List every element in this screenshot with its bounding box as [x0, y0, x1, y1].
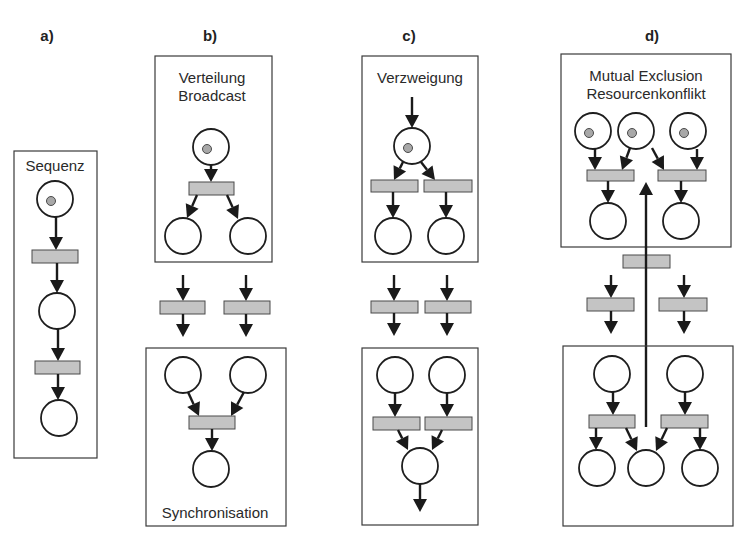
panel-label-b: b): [203, 27, 217, 44]
arc-b3: [227, 195, 233, 207]
transition-b-left: [160, 301, 205, 314]
arc-b8: [188, 392, 194, 404]
arc-b6-arrowhead: [239, 288, 253, 301]
arc-d4-arrowhead: [690, 157, 704, 170]
title-verzweigung: Verzweigung: [377, 69, 463, 86]
arc-d11-arrowhead: [606, 402, 620, 415]
arc-c5-arrowhead: [387, 288, 401, 301]
place-d7: [579, 450, 615, 486]
place-b3: [230, 218, 266, 254]
arc-c4-arrowhead: [439, 205, 453, 218]
panel-label-c: c): [402, 27, 415, 44]
place-c6: [402, 448, 438, 484]
arc-d8-arrowhead: [604, 321, 618, 334]
arc-a1-arrowhead: [49, 237, 63, 250]
transition-c4: [425, 301, 471, 313]
arc-d12-arrowhead: [678, 402, 692, 415]
transition-b-right: [224, 301, 270, 314]
place-d3: [590, 203, 626, 239]
place-c3: [428, 218, 464, 254]
place-b5: [230, 357, 266, 393]
arc-a3-arrowhead: [51, 348, 65, 361]
arc-c2: [421, 162, 427, 170]
place-c2: [375, 218, 411, 254]
panel-label-a: a): [40, 27, 53, 44]
arc-c2-arrowhead: [421, 165, 435, 180]
arc-d2: [626, 148, 630, 158]
transition-c6: [425, 417, 472, 430]
place-a3: [41, 400, 77, 436]
place-d4: [663, 203, 699, 239]
arc-c12: [438, 430, 442, 438]
place-b6: [193, 451, 229, 487]
title-synchronisation: Synchronisation: [162, 504, 269, 521]
title-broadcast: Broadcast: [178, 87, 246, 104]
arc-d3: [652, 148, 658, 159]
place-d5: [594, 356, 630, 392]
token: [404, 144, 413, 153]
transition-a2: [35, 361, 80, 374]
panel-d-bottom-box: [563, 346, 733, 526]
place-a2: [39, 293, 75, 329]
transition-c5: [373, 417, 420, 430]
transition-d3: [587, 298, 634, 311]
token: [680, 129, 689, 138]
transition-d2: [658, 170, 706, 181]
title-verteilung: Verteilung: [179, 69, 246, 86]
transition-c3: [371, 301, 418, 313]
arc-c3-arrowhead: [386, 205, 400, 218]
transition-d1: [587, 170, 634, 181]
token: [628, 129, 637, 138]
arc-c8-arrowhead: [440, 323, 454, 336]
arc-d7-arrowhead: [604, 285, 618, 298]
transition-b-sync: [189, 416, 235, 429]
arc-d5-arrowhead: [601, 190, 615, 203]
arc-b1-arrowhead: [204, 169, 218, 182]
transition-c1: [371, 180, 418, 192]
place-b2: [165, 218, 201, 254]
arc-a2-arrowhead: [50, 280, 64, 293]
petri-net-figure: a)b)c)d)SequenzVerteilungBroadcastSynchr…: [0, 0, 751, 536]
arc-c-out-arrowhead: [413, 499, 427, 512]
transition-d4: [659, 298, 707, 311]
transition-b-broadcast: [189, 182, 234, 195]
arc-b5-arrowhead: [176, 324, 190, 337]
arc-d1-arrowhead: [588, 157, 602, 170]
token: [47, 197, 56, 206]
arc-a4-arrowhead: [51, 387, 65, 400]
token: [585, 129, 594, 138]
arc-c10-arrowhead: [440, 404, 454, 417]
arc-c9-arrowhead: [388, 404, 402, 417]
title-mutual-exclusion: Mutual Exclusion: [589, 67, 702, 84]
arc-c7-arrowhead: [440, 288, 454, 301]
place-d8: [628, 450, 664, 486]
transition-d5: [589, 415, 635, 428]
arc-d15: [662, 428, 667, 439]
transition-a1: [32, 250, 78, 263]
transition-c2: [424, 180, 472, 192]
transition-d6: [661, 415, 708, 428]
arc-c11: [398, 430, 402, 438]
arc-d10-arrowhead: [677, 321, 691, 334]
place-b4: [165, 357, 201, 393]
arc-c-in-arrowhead: [405, 115, 419, 128]
arc-b4-arrowhead: [176, 288, 190, 301]
arc-c1: [400, 162, 403, 168]
token: [203, 145, 212, 154]
arc-d14: [626, 428, 631, 439]
place-d9: [682, 450, 718, 486]
arc-d13-arrowhead: [589, 437, 603, 450]
place-c4: [377, 357, 413, 393]
arc-d9-arrowhead: [677, 285, 691, 298]
title-sequenz: Sequenz: [25, 157, 84, 174]
arc-d6-arrowhead: [674, 190, 688, 203]
arc-d-return-arrowhead: [639, 182, 653, 195]
arc-b2: [192, 195, 197, 206]
arc-d16-arrowhead: [693, 437, 707, 450]
title-resourcenkonflikt: Resourcenkonflikt: [586, 85, 706, 102]
panel-label-d: d): [645, 27, 659, 44]
arc-b10-arrowhead: [205, 438, 219, 451]
arc-b9: [237, 392, 244, 405]
place-c5: [429, 357, 465, 393]
arc-b7-arrowhead: [239, 324, 253, 337]
